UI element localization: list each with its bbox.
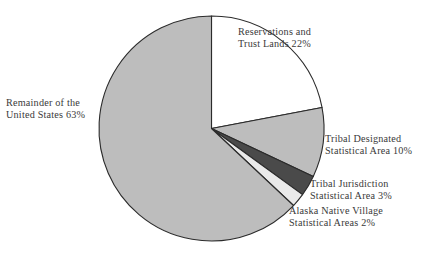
slice-label-remainder-of-the-united-states: Remainder of the United States 63%: [6, 97, 85, 121]
slice-label-line-2: Statistical Area 10%: [325, 145, 412, 157]
slice-label-line-2: United States 63%: [6, 109, 85, 121]
slice-label-line-1: Tribal Jurisdiction: [310, 178, 392, 190]
slice-label-line-1: Alaska Native Village: [289, 205, 383, 217]
slice-label-line-1: Reservations and: [238, 26, 311, 38]
slice-label-line-2: Trust Lands 22%: [238, 38, 311, 50]
pie-chart: Reservations and Trust Lands 22% Remaind…: [0, 0, 425, 253]
slice-label-alaska-native-village-statistical-areas: Alaska Native Village Statistical Areas …: [289, 205, 383, 229]
slice-label-line-2: Statistical Areas 2%: [289, 217, 383, 229]
slice-label-tribal-jurisdiction-statistical-area: Tribal Jurisdiction Statistical Area 3%: [310, 178, 392, 202]
slice-label-line-1: Tribal Designated: [325, 133, 412, 145]
slice-label-tribal-designated-statistical-area: Tribal Designated Statistical Area 10%: [325, 133, 412, 157]
slice-label-line-2: Statistical Area 3%: [310, 190, 392, 202]
slice-label-reservations-and-trust-lands: Reservations and Trust Lands 22%: [238, 26, 311, 50]
slice-label-line-1: Remainder of the: [6, 97, 85, 109]
